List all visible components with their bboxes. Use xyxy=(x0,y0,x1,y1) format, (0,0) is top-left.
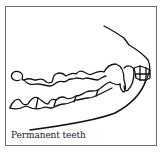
figure-caption: Permanent teeth xyxy=(11,130,86,140)
muzzle-outline xyxy=(104,26,150,78)
lower-jaw-outline xyxy=(30,80,146,130)
upper-teeth xyxy=(12,64,126,92)
